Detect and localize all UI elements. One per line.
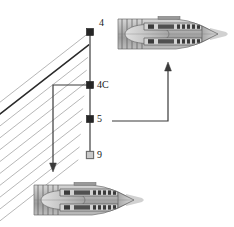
station-marker-4: [86, 28, 93, 35]
upstream-arrow-head: [165, 62, 172, 71]
station-label-4c: 4C: [97, 80, 109, 90]
flow-arrows: [50, 62, 172, 172]
downstream-arrow-shaft: [53, 85, 90, 164]
station-label-5: 5: [97, 114, 102, 124]
engine-station-diagram: 44C59: [0, 0, 234, 227]
station-marker-4c: [86, 81, 93, 88]
station-label-9: 9: [97, 150, 102, 160]
station-marker-9: [86, 151, 93, 158]
downstream-arrow-head: [50, 163, 57, 172]
annotation-layer: [0, 0, 234, 227]
upstream-arrow-shaft: [112, 70, 168, 121]
station-label-4: 4: [99, 18, 104, 28]
station-marker-5: [86, 115, 93, 122]
